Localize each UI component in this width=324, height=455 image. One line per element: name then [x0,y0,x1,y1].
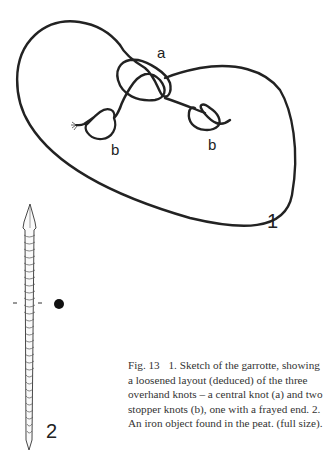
label-stopper-knot-left: b [111,141,119,158]
figure-caption: Fig. 13 1. Sketch of the garrotte, showi… [128,358,324,431]
iron-object [23,204,36,450]
figure-number: Fig. 13 [128,359,160,371]
stopper-knot-right [189,105,230,130]
label-central-knot: a [157,44,165,61]
stopper-knot-left [76,109,115,139]
label-figure-2: 2 [46,420,57,443]
cross-section-dot [54,299,64,309]
label-figure-1: 1 [267,210,278,233]
figure: a b b 1 2 Fig. 13 1. Sketch of the garro… [0,0,324,455]
label-stopper-knot-right: b [208,136,216,153]
cord-right [165,98,205,113]
